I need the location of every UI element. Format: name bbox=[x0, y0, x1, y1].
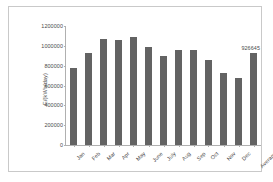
x-axis-tick-mark bbox=[254, 145, 255, 147]
x-axis-tick-label: Feb bbox=[90, 150, 101, 161]
bar-slot bbox=[141, 26, 156, 145]
bar-slot bbox=[216, 26, 231, 145]
bar bbox=[175, 50, 182, 145]
bar bbox=[205, 60, 212, 145]
bar-slot bbox=[201, 26, 216, 145]
x-axis-tick-mark bbox=[133, 145, 134, 147]
y-axis-tick-label: 1000000 bbox=[41, 43, 63, 49]
bar-slot bbox=[96, 26, 111, 145]
bar-series: 926645 bbox=[66, 26, 261, 145]
x-axis-tick-mark bbox=[119, 145, 120, 147]
x-axis-tick-mark bbox=[224, 145, 225, 147]
bar-slot bbox=[171, 26, 186, 145]
bar-slot bbox=[81, 26, 96, 145]
bar-slot bbox=[126, 26, 141, 145]
bar bbox=[235, 78, 242, 145]
bar bbox=[100, 39, 107, 145]
y-axis-tick-label: 1200000 bbox=[41, 23, 63, 29]
chart-frame: E/(kWh/day) 1200000100000080000060000040… bbox=[8, 6, 262, 172]
bar-slot: 926645 bbox=[246, 26, 261, 145]
x-axis-tick-mark bbox=[164, 145, 165, 147]
bar-slot bbox=[231, 26, 246, 145]
x-axis-tick-mark bbox=[208, 145, 209, 147]
bar bbox=[160, 56, 167, 145]
bar bbox=[250, 53, 257, 145]
x-axis-tick-label: Aug bbox=[180, 150, 191, 161]
x-axis-tick-label: Average bbox=[258, 150, 273, 169]
x-axis-tick-label: July bbox=[165, 150, 176, 161]
bar bbox=[190, 50, 197, 145]
y-axis-tick-label: 200000 bbox=[44, 122, 63, 128]
y-axis-tick-label: 800000 bbox=[44, 63, 63, 69]
x-axis-tick-mark bbox=[149, 145, 150, 147]
chart-figure: E/(kWh/day) 1200000100000080000060000040… bbox=[0, 0, 273, 182]
bar-slot bbox=[66, 26, 81, 145]
x-axis-tick-label: Dec bbox=[240, 150, 251, 161]
bar bbox=[70, 68, 77, 145]
bar-slot bbox=[156, 26, 171, 145]
bar bbox=[130, 37, 137, 145]
x-axis-tick-label: Jan bbox=[75, 150, 86, 161]
y-axis-tick-label: 600000 bbox=[44, 83, 63, 89]
x-axis-tick-label: Sep bbox=[195, 150, 206, 161]
x-axis-tick-label: June bbox=[151, 150, 164, 163]
bar bbox=[85, 53, 92, 145]
y-axis-tick-label: 0 bbox=[60, 142, 63, 148]
x-axis-tick-label: Mar bbox=[105, 150, 116, 161]
x-axis-tick-mark bbox=[89, 145, 90, 147]
x-axis-tick-mark bbox=[194, 145, 195, 147]
bar-value-label: 926645 bbox=[241, 45, 260, 51]
y-axis-tick-label: 400000 bbox=[44, 102, 63, 108]
x-axis-tick-label: Nov bbox=[225, 150, 236, 161]
x-axis-tick-label: Oct bbox=[210, 150, 220, 160]
x-axis-tick-mark bbox=[179, 145, 180, 147]
y-axis-tick-mark bbox=[64, 145, 66, 146]
bar bbox=[115, 40, 122, 145]
x-axis-tick-label: May bbox=[135, 150, 147, 162]
x-axis-tick-label: Apr bbox=[120, 150, 130, 160]
x-axis-tick-mark bbox=[239, 145, 240, 147]
bar-slot bbox=[186, 26, 201, 145]
x-axis-tick-mark bbox=[104, 145, 105, 147]
y-axis-title: E/(kWh/day) bbox=[42, 73, 48, 105]
bar bbox=[145, 47, 152, 145]
x-axis-tick-mark bbox=[74, 145, 75, 147]
plot-area: 120000010000008000006000004000002000000 … bbox=[65, 26, 261, 146]
bar bbox=[220, 73, 227, 145]
bar-slot bbox=[111, 26, 126, 145]
